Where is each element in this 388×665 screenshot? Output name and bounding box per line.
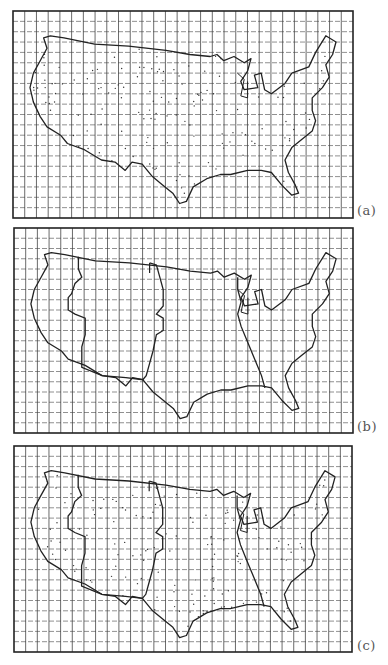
data-point xyxy=(238,553,239,554)
data-point xyxy=(64,502,65,503)
data-point xyxy=(221,606,222,607)
data-point xyxy=(115,565,116,566)
data-point xyxy=(283,580,284,581)
data-point xyxy=(86,579,87,580)
data-point xyxy=(155,504,156,505)
data-point xyxy=(111,576,112,577)
data-point xyxy=(231,607,232,608)
data-point xyxy=(300,543,301,544)
data-point xyxy=(57,475,58,476)
data-point xyxy=(284,611,285,612)
data-point xyxy=(90,580,91,581)
data-point xyxy=(301,547,302,548)
us-outline xyxy=(31,471,335,638)
data-point xyxy=(195,579,196,580)
data-point xyxy=(142,516,143,517)
data-point xyxy=(322,514,323,515)
data-point xyxy=(112,499,113,500)
data-point xyxy=(150,517,151,518)
data-point xyxy=(196,492,197,493)
data-point xyxy=(125,509,126,510)
map-panel-c: (c) xyxy=(0,0,388,665)
data-point xyxy=(228,590,229,591)
data-point xyxy=(113,521,114,522)
data-point xyxy=(203,613,204,614)
data-point xyxy=(140,554,141,555)
data-point xyxy=(243,603,244,604)
data-point xyxy=(240,563,241,564)
data-point xyxy=(152,511,153,512)
panel-label-c: (c) xyxy=(357,638,376,653)
data-point xyxy=(103,499,104,500)
data-point xyxy=(214,603,215,604)
data-point xyxy=(210,536,211,537)
data-point xyxy=(55,559,56,560)
data-point xyxy=(258,537,259,538)
data-point xyxy=(132,495,133,496)
data-point xyxy=(294,514,295,515)
data-point xyxy=(278,541,279,542)
data-point xyxy=(213,581,214,582)
data-point xyxy=(286,608,287,609)
data-point xyxy=(55,487,56,488)
data-point xyxy=(114,543,115,544)
data-point xyxy=(176,535,177,536)
data-point xyxy=(50,529,51,530)
data-point xyxy=(205,515,206,516)
data-point xyxy=(50,540,51,541)
data-point xyxy=(125,576,126,577)
data-point xyxy=(75,569,76,570)
data-point xyxy=(190,517,191,518)
data-point xyxy=(189,611,190,612)
data-point xyxy=(213,577,214,578)
data-point xyxy=(85,567,86,568)
data-point xyxy=(124,542,125,543)
data-point xyxy=(212,566,213,567)
data-point xyxy=(316,503,317,504)
data-point xyxy=(187,626,188,627)
data-point xyxy=(266,592,267,593)
data-point xyxy=(198,616,199,617)
data-point xyxy=(214,554,215,555)
data-point xyxy=(223,539,224,540)
data-point xyxy=(47,546,48,547)
data-point xyxy=(286,559,287,560)
data-point xyxy=(261,593,262,594)
data-point xyxy=(137,583,138,584)
data-point xyxy=(122,507,123,508)
data-point xyxy=(154,547,155,548)
data-point xyxy=(193,604,194,605)
data-point xyxy=(74,571,75,572)
data-point xyxy=(226,509,227,510)
data-point xyxy=(257,514,258,515)
data-point xyxy=(156,487,157,488)
data-point xyxy=(86,535,87,536)
data-point xyxy=(227,512,228,513)
data-point xyxy=(176,494,177,495)
data-point xyxy=(319,484,320,485)
data-point xyxy=(281,558,282,559)
data-point xyxy=(132,555,133,556)
data-point xyxy=(156,596,157,597)
data-point xyxy=(315,508,316,509)
data-point xyxy=(207,544,208,545)
data-point xyxy=(256,601,257,602)
data-point xyxy=(179,611,180,612)
data-point xyxy=(174,606,175,607)
data-point xyxy=(280,526,281,527)
data-point xyxy=(100,508,101,509)
data-point xyxy=(323,485,324,486)
data-point xyxy=(122,595,123,596)
data-point xyxy=(288,544,289,545)
data-point xyxy=(212,558,213,559)
data-point xyxy=(47,481,48,482)
data-point xyxy=(94,514,95,515)
data-point xyxy=(143,560,144,561)
data-point xyxy=(93,509,94,510)
data-point xyxy=(59,542,60,543)
data-point xyxy=(202,610,203,611)
data-point xyxy=(204,595,205,596)
data-point xyxy=(147,549,148,550)
data-point xyxy=(52,553,53,554)
data-point xyxy=(91,581,92,582)
